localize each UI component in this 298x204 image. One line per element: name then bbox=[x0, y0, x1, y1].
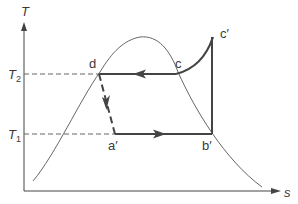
state-c-label: c bbox=[175, 57, 182, 70]
ts-diagram bbox=[0, 0, 298, 204]
t2-subscript: 2 bbox=[16, 74, 21, 84]
x-axis-label: s bbox=[284, 186, 291, 199]
x-axis bbox=[24, 188, 281, 194]
t1-symbol: T bbox=[8, 127, 16, 142]
y-axis bbox=[21, 22, 27, 191]
state-b-prime-label: b′ bbox=[202, 139, 212, 152]
y-axis-label: T bbox=[21, 5, 29, 18]
state-c-prime-label: c′ bbox=[220, 27, 229, 40]
saturation-dome bbox=[33, 37, 262, 187]
x-axis-arrow-icon bbox=[271, 188, 281, 194]
y-axis-arrow-icon bbox=[21, 22, 27, 31]
t1-subscript: 1 bbox=[16, 134, 21, 144]
t1-label: T1 bbox=[8, 128, 21, 141]
state-a-prime-label: a′ bbox=[108, 139, 118, 152]
t2-label: T2 bbox=[8, 68, 21, 81]
t2-symbol: T bbox=[8, 67, 16, 82]
state-d-label: d bbox=[89, 57, 96, 70]
